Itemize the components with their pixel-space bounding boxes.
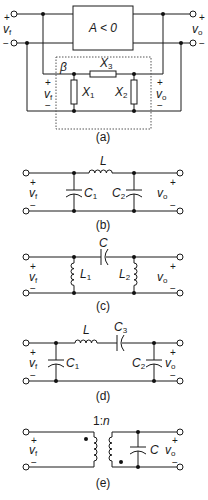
panel-a-feedback-oscillator: A < 0 + vf − + vo − β X3 X1 <box>3 6 205 144</box>
output-terminal-minus <box>177 290 183 296</box>
caption-e: (e) <box>96 476 111 490</box>
capacitor-c <box>130 432 146 467</box>
reactance-x2 <box>131 80 137 104</box>
output-plus-sign: + <box>199 12 205 23</box>
output-terminal-plus <box>177 340 183 346</box>
input-minus-sign: − <box>30 283 36 294</box>
output-terminal-plus <box>177 429 183 435</box>
c-label: C <box>99 236 108 250</box>
output-plus-sign: + <box>170 177 176 188</box>
inductor-l1 <box>71 257 74 293</box>
inductor-l <box>89 170 112 173</box>
turns-ratio-label: 1:n <box>93 414 110 428</box>
output-voltage-label: vo <box>165 356 176 371</box>
input-minus-sign: − <box>31 457 37 468</box>
junction-dot <box>132 72 136 76</box>
output-minus-sign: − <box>170 370 176 381</box>
input-terminal-minus <box>23 208 29 214</box>
junction-dot <box>72 255 76 259</box>
junction-dot <box>72 209 76 213</box>
input-terminal-plus <box>11 11 17 17</box>
junction-dot <box>132 291 136 295</box>
junction-dot <box>132 255 136 259</box>
beta-output-minus: − <box>157 100 163 111</box>
x3-label: X3 <box>99 56 113 71</box>
junction-dot <box>136 465 140 469</box>
input-voltage-label: vf <box>29 186 38 201</box>
reactance-x1 <box>71 80 77 104</box>
polarity-dot-primary <box>84 437 88 441</box>
capacitor-c1 <box>48 343 64 381</box>
junction-dot <box>179 41 183 45</box>
output-terminal-plus <box>177 254 183 260</box>
l1-label: L1 <box>80 267 92 282</box>
polarity-dot-secondary <box>119 460 123 464</box>
output-plus-sign: + <box>170 261 176 272</box>
output-minus-sign: − <box>172 457 178 468</box>
panel-b-colpitts: L C1 C2 + vf − + vo − (b) <box>23 154 183 232</box>
input-terminal-plus <box>23 429 29 435</box>
output-terminal-minus <box>177 378 183 384</box>
capacitor-c2 <box>126 173 142 211</box>
input-minus-sign: − <box>30 200 36 211</box>
input-terminal-plus <box>23 254 29 260</box>
junction-dot <box>72 291 76 295</box>
input-terminal-minus <box>23 290 29 296</box>
output-voltage-label: vo <box>157 270 168 285</box>
output-terminal-minus <box>190 40 196 46</box>
output-terminal-minus <box>177 464 183 470</box>
junction-dot <box>54 341 58 345</box>
output-terminal-minus <box>177 208 183 214</box>
capacitor-c2 <box>146 343 162 381</box>
junction-dot <box>152 341 156 345</box>
junction-dot <box>132 209 136 213</box>
input-minus-sign: − <box>30 370 36 381</box>
x2-label: X2 <box>114 85 128 100</box>
x1-label: X1 <box>81 85 95 100</box>
c3-label: C3 <box>114 320 128 335</box>
output-minus-sign: − <box>170 283 176 294</box>
caption-d: (d) <box>96 389 111 403</box>
beta-label: β <box>59 60 67 74</box>
junction-dot <box>25 41 29 45</box>
output-terminal-plus <box>177 170 183 176</box>
output-terminal-plus <box>190 11 196 17</box>
output-minus-sign: − <box>199 38 205 49</box>
c1-label: C1 <box>66 356 80 371</box>
reactance-x3 <box>90 71 116 77</box>
caption-a: (a) <box>96 130 111 144</box>
panel-e-transformer-feedback: 1:n C + vf − + vo − (e) <box>23 414 183 490</box>
panel-c-hartley: C L1 L2 + vf − + vo − (c) <box>23 236 183 313</box>
l-label: L <box>83 323 90 337</box>
panel-d-clapp: L C3 C1 C2 + vf − + vo − (d) <box>23 320 183 403</box>
caption-c: (c) <box>96 299 110 313</box>
output-voltage-label: vo <box>192 22 203 37</box>
c2-label: C2 <box>112 186 126 201</box>
beta-input-minus: − <box>45 100 51 111</box>
capacitor-c1 <box>66 173 82 211</box>
inductor-l2 <box>134 257 137 293</box>
output-voltage-label: vo <box>157 186 168 201</box>
input-voltage-label: vf <box>29 356 38 371</box>
input-minus-sign: − <box>3 38 9 49</box>
input-terminal-minus <box>11 40 17 46</box>
circuit-figure: A < 0 + vf − + vo − β X3 X1 <box>0 0 208 500</box>
c2-label: C2 <box>132 356 146 371</box>
junction-dot <box>161 12 165 16</box>
input-voltage-label: vf <box>3 22 12 37</box>
input-terminal-minus <box>23 378 29 384</box>
junction-dot <box>54 379 58 383</box>
input-terminal-minus <box>23 464 29 470</box>
junction-dot <box>72 171 76 175</box>
junction-dot <box>72 72 76 76</box>
output-minus-sign: − <box>170 200 176 211</box>
junction-dot <box>152 379 156 383</box>
junction-dot <box>41 12 45 16</box>
l2-label: L2 <box>119 267 131 282</box>
junction-dot <box>136 430 140 434</box>
input-terminal-plus <box>23 170 29 176</box>
input-terminal-plus <box>23 340 29 346</box>
junction-dot <box>132 109 136 113</box>
l-label: L <box>100 154 107 168</box>
junction-dot <box>72 109 76 113</box>
